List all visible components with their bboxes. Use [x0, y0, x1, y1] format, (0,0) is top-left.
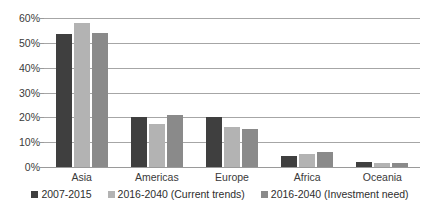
legend-item[interactable]: 2016-2040 (Current trends)	[108, 189, 245, 200]
legend-swatch-icon	[108, 191, 115, 198]
bar	[374, 163, 390, 167]
bar	[131, 117, 147, 167]
bar	[149, 124, 165, 167]
x-axis-label: Africa	[294, 170, 321, 184]
x-axis-label: Europe	[215, 170, 249, 184]
legend: 2007-20152016-2040 (Current trends)2016-…	[0, 189, 440, 200]
x-axis-label: Americas	[135, 170, 179, 184]
x-axis-label: Oceania	[363, 170, 402, 184]
bar	[356, 162, 372, 167]
bar	[206, 117, 222, 167]
y-axis-label: 50%	[4, 38, 40, 49]
legend-swatch-icon	[31, 191, 38, 198]
bar-chart: 0%10%20%30%40%50%60% AsiaAmericasEuropeA…	[0, 0, 440, 213]
bar-group	[44, 18, 119, 167]
bar	[242, 129, 258, 167]
bar	[317, 152, 333, 167]
y-axis-label: 20%	[4, 112, 40, 123]
bar	[281, 156, 297, 167]
bar-group	[194, 18, 269, 167]
gridline	[44, 167, 420, 168]
bar	[392, 163, 408, 167]
plot-area	[44, 18, 420, 167]
bar	[56, 34, 72, 167]
legend-swatch-icon	[261, 191, 268, 198]
bar	[74, 23, 90, 167]
bar	[92, 33, 108, 167]
legend-item[interactable]: 2016-2040 (Investment need)	[261, 189, 409, 200]
bar	[224, 127, 240, 167]
legend-label: 2016-2040 (Investment need)	[271, 189, 409, 200]
bar	[167, 115, 183, 167]
bar	[299, 154, 315, 167]
x-axis: AsiaAmericasEuropeAfricaOceania	[44, 170, 420, 186]
y-axis-label: 0%	[4, 162, 40, 173]
y-axis-label: 10%	[4, 137, 40, 148]
legend-label: 2007-2015	[41, 189, 91, 200]
y-axis-label: 60%	[4, 13, 40, 24]
y-axis-label: 30%	[4, 87, 40, 98]
bar-group	[270, 18, 345, 167]
y-axis-label: 40%	[4, 62, 40, 73]
y-axis: 0%10%20%30%40%50%60%	[0, 18, 40, 167]
bar-group	[119, 18, 194, 167]
x-axis-label: Asia	[71, 170, 91, 184]
legend-label: 2016-2040 (Current trends)	[118, 189, 245, 200]
legend-item[interactable]: 2007-2015	[31, 189, 91, 200]
y-axis-tick	[40, 167, 44, 168]
bar-group	[345, 18, 420, 167]
